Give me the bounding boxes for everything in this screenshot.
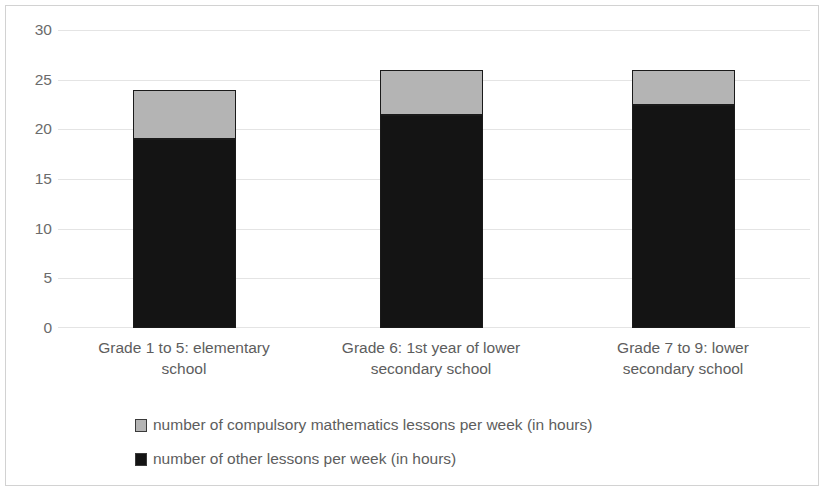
legend-item-label: number of compulsory mathematics lessons… <box>153 416 592 434</box>
category-label-grade-6: Grade 6: 1st year of lower secondary sch… <box>306 338 556 380</box>
gridline-30 <box>58 30 810 31</box>
y-axis: 30 25 20 15 10 5 0 <box>6 30 52 328</box>
bar-segment-math-lessons[interactable] <box>380 70 483 115</box>
legend-item-math-lessons[interactable]: number of compulsory mathematics lessons… <box>0 408 825 442</box>
legend-swatch-icon-black <box>135 453 147 466</box>
category-label-line1: Grade 6: 1st year of lower <box>306 338 556 359</box>
bar-segment-math-lessons[interactable] <box>133 90 236 140</box>
y-tick-20: 20 <box>6 121 52 137</box>
legend-item-other-lessons[interactable]: number of other lessons per week (in hou… <box>0 442 825 476</box>
y-tick-25: 25 <box>6 72 52 88</box>
y-tick-0: 0 <box>6 320 52 336</box>
category-label-line2: secondary school <box>306 359 556 380</box>
legend-item-label: number of other lessons per week (in hou… <box>153 450 456 468</box>
chart-container: 30 25 20 15 10 5 0 Grade 1 to 5: el <box>0 0 825 492</box>
plot-area <box>58 30 810 328</box>
y-tick-10: 10 <box>6 221 52 237</box>
y-tick-30: 30 <box>6 22 52 38</box>
x-axis-category-labels: Grade 1 to 5: elementary school Grade 6:… <box>58 338 810 394</box>
bar-segment-math-lessons[interactable] <box>632 70 735 105</box>
bar-segment-other-lessons[interactable] <box>632 105 735 328</box>
category-label-grade-7-to-9: Grade 7 to 9: lower secondary school <box>558 338 808 380</box>
y-tick-15: 15 <box>6 171 52 187</box>
category-label-line1: Grade 7 to 9: lower <box>558 338 808 359</box>
category-label-grade-1-to-5: Grade 1 to 5: elementary school <box>59 338 309 380</box>
category-label-line2: secondary school <box>558 359 808 380</box>
bar-segment-other-lessons[interactable] <box>133 139 236 328</box>
y-tick-5: 5 <box>6 270 52 286</box>
bar-segment-other-lessons[interactable] <box>380 115 483 329</box>
category-label-line2: school <box>59 359 309 380</box>
legend-swatch-icon-gray <box>135 419 147 432</box>
category-label-line1: Grade 1 to 5: elementary <box>59 338 309 359</box>
chart-legend: number of compulsory mathematics lessons… <box>0 408 825 476</box>
